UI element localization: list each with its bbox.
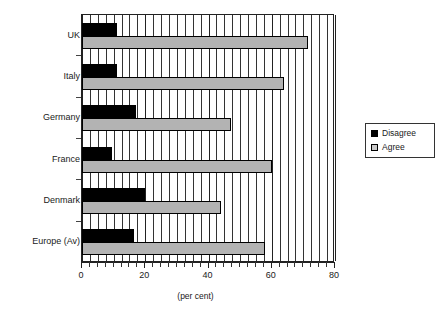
y-axis-tick [76, 179, 81, 180]
legend-label-disagree: Disagree [382, 129, 416, 138]
x-axis-tick [152, 262, 153, 267]
y-axis-tick [76, 55, 81, 56]
x-axis-tick [231, 262, 232, 267]
legend-label-agree: Agree [382, 143, 405, 152]
x-axis-tick [294, 262, 295, 267]
x-axis-tick [271, 262, 272, 268]
x-axis-tick [121, 262, 122, 267]
x-axis-tick [89, 262, 90, 267]
bar-agree [82, 160, 272, 173]
x-axis-tick-label: 40 [202, 270, 212, 280]
legend-swatch-agree-icon [371, 144, 378, 151]
gridline [335, 15, 336, 261]
x-axis-tick [310, 262, 311, 267]
y-axis-line [81, 14, 82, 263]
bar-disagree [82, 188, 145, 201]
x-axis-tick [239, 262, 240, 267]
legend-item-agree: Agree [371, 143, 429, 152]
x-axis-tick [287, 262, 288, 267]
x-axis-tick [105, 262, 106, 267]
bar-agree [82, 242, 265, 255]
bar-group [82, 180, 333, 221]
x-axis-tick [279, 262, 280, 267]
bar-disagree [82, 23, 117, 36]
x-axis-tick [334, 262, 335, 268]
x-axis-tick [215, 262, 216, 267]
y-axis-category-label: UK [67, 30, 80, 40]
x-axis-tick [184, 262, 185, 267]
x-axis-tick [247, 262, 248, 267]
y-axis-tick [76, 97, 81, 98]
bars-layer [82, 15, 333, 261]
x-axis-title: (per cent) [0, 291, 443, 301]
legend-item-disagree: Disagree [371, 129, 429, 138]
x-axis-tick [128, 262, 129, 267]
x-axis-tick [176, 262, 177, 267]
bar-agree [82, 36, 308, 49]
x-axis-tick [168, 262, 169, 267]
y-axis-category-label: Italy [63, 71, 80, 81]
x-axis-tick-label: 0 [78, 270, 83, 280]
bar-disagree [82, 105, 136, 118]
x-axis-tick-label: 60 [266, 270, 276, 280]
bar-agree [82, 201, 221, 214]
x-axis-tick [263, 262, 264, 267]
plot-area [81, 14, 334, 262]
x-axis-tick [255, 262, 256, 267]
bar-group [82, 15, 333, 56]
y-axis-category-label: Denmark [43, 195, 80, 205]
bar-group [82, 56, 333, 97]
x-axis-tick [223, 262, 224, 267]
y-axis-tick [76, 221, 81, 222]
y-axis-tick [76, 138, 81, 139]
x-axis-title-text: (per cent) [177, 291, 213, 301]
bar-agree [82, 118, 231, 131]
x-axis-tick [326, 262, 327, 267]
x-axis-tick [208, 262, 209, 268]
x-axis-tick [97, 262, 98, 267]
x-axis-tick [136, 262, 137, 267]
x-axis-tick-label: 20 [139, 270, 149, 280]
legend-swatch-disagree-icon [371, 130, 378, 137]
x-axis-tick-label: 80 [329, 270, 339, 280]
x-axis-tick [192, 262, 193, 267]
bar-group [82, 139, 333, 180]
bar-disagree [82, 229, 134, 242]
bar-group [82, 98, 333, 139]
x-axis-tick [144, 262, 145, 268]
x-axis-tick [302, 262, 303, 267]
bar-group [82, 222, 333, 263]
y-axis-category-label: France [52, 154, 80, 164]
x-axis-tick [318, 262, 319, 267]
bar-agree [82, 77, 284, 90]
chart-legend: Disagree Agree [365, 123, 435, 158]
y-axis-category-label: Europe (Av) [32, 236, 80, 246]
x-axis-tick [81, 262, 82, 268]
bar-chart: UKItalyGermanyFranceDenmarkEurope (Av) 0… [0, 0, 443, 317]
x-axis-tick [200, 262, 201, 267]
x-axis-tick [113, 262, 114, 267]
bar-disagree [82, 64, 117, 77]
bar-disagree [82, 147, 112, 160]
y-axis-category-label: Germany [43, 112, 80, 122]
x-axis-tick [160, 262, 161, 267]
